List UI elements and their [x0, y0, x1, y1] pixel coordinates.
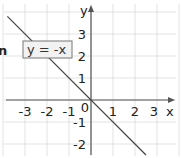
axes: x y	[6, 3, 175, 155]
function-label: y = -x	[23, 41, 72, 58]
x-tick-label: 3	[150, 104, 158, 119]
series	[7, 16, 146, 155]
y-tick-label: 3	[78, 27, 86, 42]
y-tick-label: 1	[78, 71, 86, 86]
x-tick-label: 1	[109, 104, 117, 119]
function-line	[7, 16, 146, 155]
x-axis-arrow-icon	[168, 97, 175, 103]
function-label-text: y = -x	[27, 42, 67, 57]
cut-off-text: n	[0, 43, 7, 58]
x-tick-label: -2	[41, 104, 54, 119]
coordinate-plane: x y -3-2-10123321-1-2 y = -x n	[0, 0, 181, 158]
y-axis-arrow-icon	[88, 5, 94, 12]
y-tick-label: -1	[73, 115, 86, 130]
x-tick-label: 2	[131, 104, 139, 119]
y-tick-label: 2	[78, 49, 86, 64]
y-tick-label: -2	[73, 137, 86, 152]
x-tick-label: 0	[81, 100, 89, 115]
x-tick-label: -3	[19, 104, 32, 119]
x-axis-label: x	[166, 104, 174, 119]
y-axis-label: y	[80, 3, 88, 18]
